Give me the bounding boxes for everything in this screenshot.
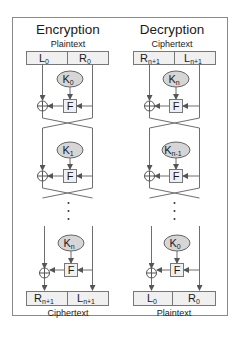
encryption-output-label: Ciphertext — [47, 308, 89, 318]
f-label: F — [174, 264, 181, 276]
encryption-output-block: Rn+1 Ln+1 — [27, 292, 109, 306]
f-label: F — [67, 100, 74, 112]
decryption-output-label: Plaintext — [157, 308, 192, 318]
f-label: F — [68, 264, 75, 276]
encryption-input-block: L0 R0 — [27, 52, 109, 66]
encryption-input-label: Plaintext — [51, 39, 86, 49]
f-label: F — [67, 170, 74, 182]
decryption-input-label: Ciphertext — [151, 39, 193, 49]
decryption-input-block: Rn+1 Ln+1 — [134, 52, 216, 66]
decryption-title: Decryption — [140, 22, 205, 37]
f-label: F — [173, 100, 180, 112]
encryption-title: Encryption — [36, 22, 100, 37]
f-label: F — [173, 170, 180, 182]
decryption-output-block: L0 R0 — [134, 292, 216, 306]
feistel-diagram: Encryption Plaintext L0 R0 K0 F — [0, 0, 240, 338]
